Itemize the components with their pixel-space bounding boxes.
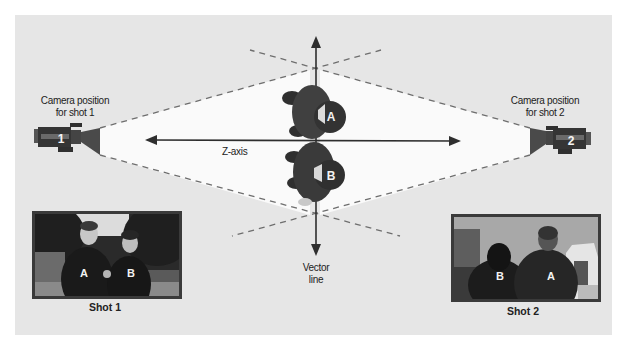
- camera-1-label: Camera position for shot 1: [30, 95, 120, 119]
- shot-1-scene: [35, 214, 179, 296]
- right-camera-view-cone: [320, 70, 530, 215]
- vector-line-label-line2: line: [296, 274, 336, 286]
- shot-2-person-b-letter: B: [496, 270, 504, 282]
- camera-1-icon: 1: [34, 123, 100, 155]
- camera-2-label: Camera position for shot 2: [500, 95, 590, 119]
- camera-2-label-line1: Camera position: [500, 95, 590, 107]
- camera-2-number: 2: [568, 134, 575, 148]
- vector-line-label: Vector line: [296, 262, 336, 286]
- left-camera-view-cone: [100, 70, 310, 215]
- shot-2-person-a-letter: A: [547, 270, 555, 282]
- subject-b-letter: B: [327, 169, 336, 183]
- camera-2-icon: 2: [530, 126, 591, 155]
- shot-2-photo: B A: [451, 214, 601, 302]
- camera-1-label-line2: for shot 1: [30, 107, 120, 119]
- vector-line-label-line1: Vector: [296, 262, 336, 274]
- shot-1-caption: Shot 1: [70, 301, 140, 313]
- shot-2-scene: [454, 217, 598, 299]
- shot-1-person-b-letter: B: [127, 267, 135, 279]
- camera-1-label-line1: Camera position: [30, 95, 120, 107]
- camera-1-number: 1: [58, 132, 65, 146]
- shot-1-photo: A B: [32, 211, 182, 299]
- shot-1-person-a-letter: A: [80, 267, 88, 279]
- camera-2-label-line2: for shot 2: [500, 107, 590, 119]
- shot-2-caption: Shot 2: [488, 305, 558, 317]
- subject-a-letter: A: [327, 110, 336, 124]
- z-axis-label: Z-axis: [222, 146, 262, 158]
